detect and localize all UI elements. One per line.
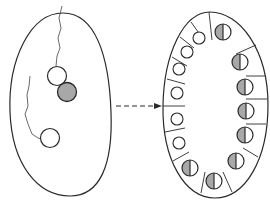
left-cell-outline bbox=[10, 13, 111, 196]
half-gray-nucleus bbox=[232, 54, 248, 70]
nucleus-white-bottom bbox=[41, 129, 60, 148]
half-gray-nucleus bbox=[237, 127, 253, 143]
half-gray-nucleus bbox=[228, 153, 244, 169]
half-gray-nucleus bbox=[215, 24, 231, 40]
left-column-nuclei bbox=[171, 32, 205, 149]
diagram-svg bbox=[0, 0, 270, 205]
white-nucleus bbox=[173, 137, 185, 149]
arrow-head-icon bbox=[154, 103, 162, 109]
left-cell bbox=[10, 6, 111, 196]
white-nucleus bbox=[181, 46, 193, 58]
half-gray-nucleus bbox=[206, 173, 222, 189]
half-gray-nucleus bbox=[237, 79, 253, 95]
white-nucleus bbox=[171, 113, 183, 125]
nucleus-gray bbox=[58, 83, 77, 102]
right-outline bbox=[163, 12, 268, 198]
dashed-arrow bbox=[116, 103, 162, 109]
half-gray-nucleus bbox=[182, 160, 198, 176]
white-nucleus bbox=[171, 87, 183, 99]
thread-line-left bbox=[25, 76, 41, 139]
right-structure bbox=[163, 12, 268, 198]
white-nucleus bbox=[173, 63, 185, 75]
right-column-nuclei bbox=[182, 24, 254, 189]
white-nucleus bbox=[193, 32, 205, 44]
thread-line-top bbox=[56, 6, 62, 66]
half-gray-nucleus bbox=[238, 103, 254, 119]
diagram-canvas bbox=[0, 0, 270, 205]
